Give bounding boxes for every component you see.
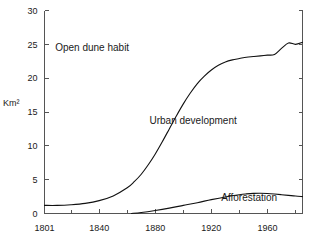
annotation-label: Urban development	[149, 115, 236, 126]
y-tick-label: 10	[27, 141, 37, 151]
y-tick-label: 0	[32, 209, 37, 219]
y-tick-label: 15	[27, 107, 37, 117]
chart-container: 051015202530 18011840188019201960 Km² Op…	[0, 0, 322, 241]
x-tick-label: 1920	[201, 223, 221, 233]
x-axis-tick-labels: 18011840188019201960	[34, 223, 277, 233]
x-tick-label: 1840	[89, 223, 109, 233]
y-tick-label: 25	[27, 40, 37, 50]
y-tick-label: 5	[32, 175, 37, 185]
y-axis-title-label: Km²	[3, 98, 20, 108]
y-tick-label: 20	[27, 73, 37, 83]
axes-group	[45, 11, 303, 214]
tick-marks-group	[45, 11, 303, 214]
x-tick-label: 1880	[145, 223, 165, 233]
y-axis-tick-labels: 051015202530	[27, 6, 37, 219]
left-bottom-axis-line	[45, 11, 303, 214]
y-tick-label: 30	[27, 6, 37, 16]
y-axis-title: Km²	[3, 98, 20, 108]
series-annotations-group: Open dune habitUrban developmentAfforest…	[55, 42, 277, 203]
data-series-group	[45, 42, 303, 213]
x-tick-label: 1801	[34, 223, 54, 233]
line-chart: 051015202530 18011840188019201960 Km² Op…	[0, 0, 322, 241]
annotation-label: Open dune habit	[55, 42, 129, 53]
x-tick-label: 1960	[257, 223, 277, 233]
annotation-label: Afforestation	[221, 192, 277, 203]
